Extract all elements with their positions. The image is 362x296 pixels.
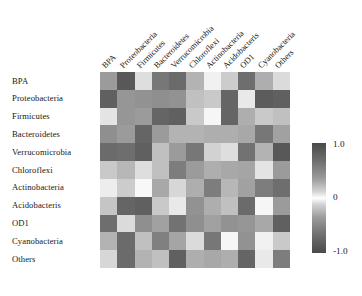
heatmap-cell (152, 161, 169, 179)
heatmap-cell (169, 215, 186, 233)
heatmap-cell (273, 197, 290, 215)
heatmap-cell (152, 108, 169, 126)
y-axis-label: Proteobacteria (0, 90, 97, 108)
heatmap-cell (100, 215, 117, 233)
heatmap-cell (255, 215, 272, 233)
heatmap-cell (135, 90, 152, 108)
heatmap-cell (204, 125, 221, 143)
heatmap-cell (255, 250, 272, 268)
heatmap-cell (100, 143, 117, 161)
heatmap-cell (117, 250, 134, 268)
heatmap-cell (204, 250, 221, 268)
heatmap-cell (186, 143, 203, 161)
y-axis-label: Chloroflexi (0, 161, 97, 179)
y-axis-label: Others (0, 250, 97, 268)
heatmap-cell (186, 90, 203, 108)
colorbar-tick-min: -1.0 (333, 247, 348, 256)
heatmap-cell (169, 179, 186, 197)
heatmap-cell (186, 125, 203, 143)
heatmap-cell (135, 143, 152, 161)
heatmap-cell (238, 179, 255, 197)
heatmap-cell (169, 250, 186, 268)
heatmap-cell (255, 179, 272, 197)
heatmap-cell (186, 108, 203, 126)
heatmap-cell (169, 108, 186, 126)
heatmap-cell (117, 179, 134, 197)
heatmap-cell (255, 143, 272, 161)
heatmap-cell (255, 72, 272, 90)
heatmap-cell (169, 161, 186, 179)
heatmap-cell (100, 90, 117, 108)
heatmap-cell (255, 232, 272, 250)
heatmap-cell (273, 250, 290, 268)
heatmap-cell (186, 215, 203, 233)
heatmap-cell (204, 90, 221, 108)
heatmap-cell (221, 108, 238, 126)
heatmap-cell (204, 215, 221, 233)
heatmap-cell (152, 232, 169, 250)
y-axis-labels: BPAProteobacteriaFirmicutesBacteroidetes… (0, 72, 97, 268)
heatmap-cell (221, 250, 238, 268)
heatmap-cell (238, 161, 255, 179)
heatmap-cell (221, 215, 238, 233)
heatmap-cell (117, 215, 134, 233)
heatmap-cell (135, 161, 152, 179)
heatmap-cell (255, 197, 272, 215)
heatmap-cell (186, 250, 203, 268)
heatmap-cell (100, 161, 117, 179)
heatmap-cell (255, 90, 272, 108)
heatmap-cell (117, 161, 134, 179)
y-axis-label: BPA (0, 72, 97, 90)
heatmap-cell (273, 179, 290, 197)
heatmap-cell (186, 72, 203, 90)
heatmap-cell (273, 143, 290, 161)
heatmap-cell (117, 232, 134, 250)
heatmap-cell (135, 125, 152, 143)
heatmap-cell (152, 197, 169, 215)
heatmap-cell (135, 250, 152, 268)
heatmap-cell (186, 161, 203, 179)
heatmap-cell (169, 125, 186, 143)
heatmap-cell (221, 232, 238, 250)
heatmap-cell (186, 197, 203, 215)
heatmap-cell (204, 197, 221, 215)
heatmap-cell (238, 72, 255, 90)
heatmap-cell (152, 179, 169, 197)
heatmap-cell (204, 179, 221, 197)
heatmap-cell (204, 232, 221, 250)
heatmap-cell (169, 232, 186, 250)
heatmap-cell (204, 108, 221, 126)
heatmap-cell (117, 125, 134, 143)
heatmap-cell (238, 232, 255, 250)
heatmap-cell (117, 143, 134, 161)
heatmap-cell (100, 125, 117, 143)
colorbar-legend: 1.0 0 -1.0 (312, 140, 362, 258)
heatmap-cell (204, 161, 221, 179)
heatmap-cell (117, 72, 134, 90)
heatmap-cell (238, 108, 255, 126)
heatmap-cell (238, 250, 255, 268)
heatmap-cell (221, 125, 238, 143)
heatmap-cell (186, 232, 203, 250)
heatmap-cell (255, 108, 272, 126)
heatmap-cell (221, 179, 238, 197)
colorbar-tick-mid: 0 (333, 193, 338, 202)
heatmap-cell (135, 197, 152, 215)
heatmap-cell (221, 90, 238, 108)
heatmap-cell (169, 143, 186, 161)
heatmap-cell (186, 179, 203, 197)
y-axis-label: Cyanobacteria (0, 232, 97, 250)
heatmap-cell (221, 161, 238, 179)
heatmap-cell (238, 215, 255, 233)
heatmap-cell (204, 72, 221, 90)
heatmap-cell (135, 108, 152, 126)
heatmap-cell (135, 232, 152, 250)
heatmap-cell (238, 125, 255, 143)
heatmap-cell (152, 143, 169, 161)
x-axis-label: BPA (101, 53, 118, 70)
heatmap-cell (152, 90, 169, 108)
heatmap-cell (152, 215, 169, 233)
heatmap-grid (100, 72, 290, 268)
heatmap-cell (221, 197, 238, 215)
heatmap-cell (152, 250, 169, 268)
